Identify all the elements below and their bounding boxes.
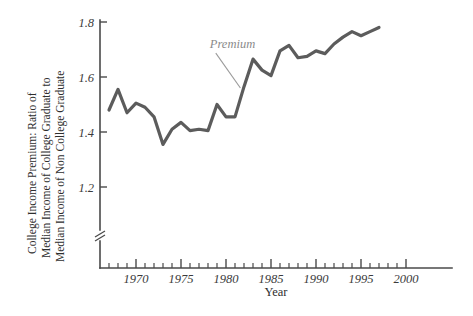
x-axis-title: Year xyxy=(264,285,288,299)
x-tick-label: 1990 xyxy=(304,272,330,286)
annotation-leader-line xyxy=(216,53,241,88)
line-chart: 1.21.41.61.8 197019751980198519901995200… xyxy=(0,0,473,316)
x-tick-label: 1970 xyxy=(124,272,150,286)
y-tick-group xyxy=(100,22,107,187)
y-axis-title-line1: College Income Premium: Ratio of xyxy=(26,92,39,254)
y-axis-title-line3: Median Income of Non College Graduate xyxy=(54,71,67,262)
x-tick-label: 1975 xyxy=(169,272,194,286)
x-tick-label: 2000 xyxy=(394,272,420,286)
y-tick-label-group: 1.21.41.61.8 xyxy=(78,16,94,195)
y-tick-label: 1.4 xyxy=(78,126,94,140)
x-tick-label: 1995 xyxy=(349,272,374,286)
x-tick-label: 1985 xyxy=(259,272,284,286)
y-tick-label: 1.2 xyxy=(78,181,94,195)
x-tick-label: 1980 xyxy=(214,272,240,286)
y-tick-label: 1.8 xyxy=(78,16,94,30)
x-tick-label-group: 1970197519801985199019952000 xyxy=(124,272,420,286)
chart-container: 1.21.41.61.8 197019751980198519901995200… xyxy=(0,0,473,316)
y-tick-label: 1.6 xyxy=(78,71,94,85)
annotation-label-premium: Premium xyxy=(209,37,255,51)
x-tick-major-group xyxy=(136,259,406,268)
y-axis-title-line2: Median Income of College Graduate to xyxy=(40,77,53,258)
